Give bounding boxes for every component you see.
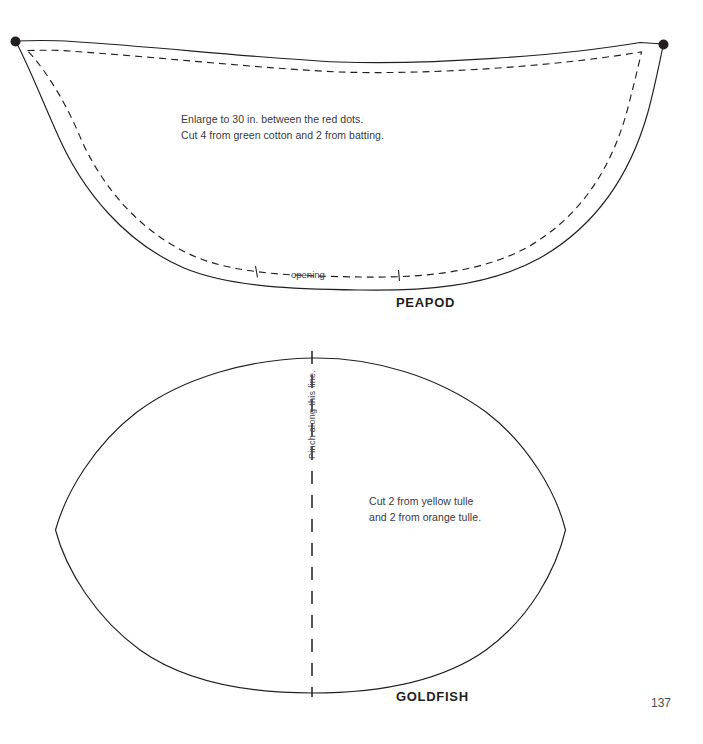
- red-dot-right-marker: [659, 40, 669, 50]
- peapod-note-line-1: Enlarge to 30 in. between the red dots.: [181, 112, 384, 128]
- pattern-page: Enlarge to 30 in. between the red dots. …: [0, 0, 703, 744]
- peapod-note-line-2: Cut 4 from green cotton and 2 from batti…: [181, 128, 384, 144]
- goldfish-note-line-2: and 2 from orange tulle.: [369, 510, 481, 526]
- peapod-instruction-note: Enlarge to 30 in. between the red dots. …: [181, 112, 384, 143]
- peapod-cut-outline: [16, 41, 664, 291]
- goldfish-note-line-1: Cut 2 from yellow tulle: [369, 494, 481, 510]
- red-dot-left-marker: [11, 37, 21, 47]
- goldfish-instruction-note: Cut 2 from yellow tulle and 2 from orang…: [369, 494, 481, 525]
- peapod-seam-line: [28, 50, 642, 277]
- goldfish-piece-label: GOLDFISH: [396, 689, 469, 704]
- opening-tick-left: [256, 266, 258, 278]
- pinch-line-label: Pinch along this line.: [307, 370, 317, 459]
- opening-tick-right: [399, 270, 400, 281]
- peapod-piece-label: PEAPOD: [396, 295, 455, 310]
- page-number: 137: [651, 696, 671, 710]
- opening-label: opening: [291, 269, 325, 280]
